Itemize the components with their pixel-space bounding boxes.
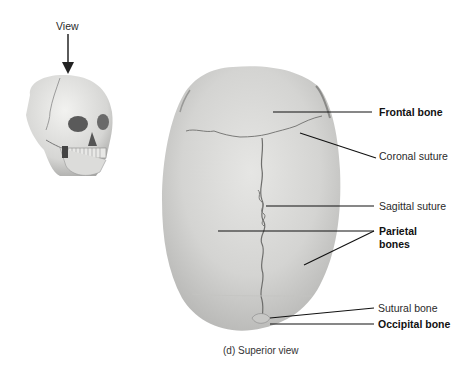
- figure-caption: (d) Superior view: [223, 345, 299, 356]
- label-sagittal-suture: Sagittal suture: [379, 200, 446, 212]
- arrow-down-icon: [62, 34, 74, 74]
- skull-thumbnail-icon: [26, 75, 113, 176]
- figure-illustration: [0, 0, 464, 370]
- label-sutural-bone: Sutural bone: [378, 302, 438, 314]
- label-coronal-suture: Coronal suture: [379, 150, 448, 162]
- label-frontal-bone: Frontal bone: [379, 106, 443, 118]
- label-parietal-bones-line2: bones: [379, 238, 410, 250]
- view-label: View: [56, 20, 79, 32]
- label-parietal-bones-line1: Parietal: [379, 225, 417, 237]
- skull-superior-view: [162, 66, 340, 330]
- label-occipital-bone: Occipital bone: [378, 318, 450, 330]
